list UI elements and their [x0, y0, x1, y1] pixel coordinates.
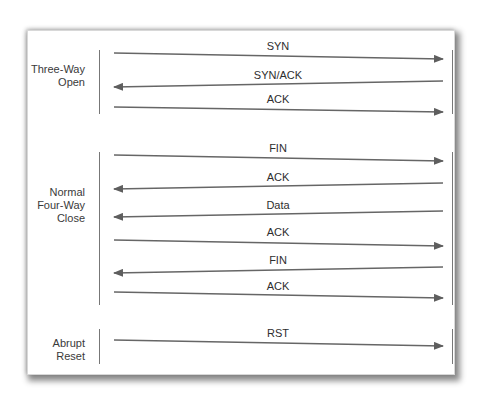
arrow-rst	[114, 340, 443, 346]
group-label-line: Three-Way	[5, 63, 85, 76]
group-label-line: Open	[5, 76, 85, 89]
arrow-data	[114, 211, 443, 217]
arrow-fin-2	[114, 267, 443, 273]
message-label-data: Data	[228, 199, 328, 211]
arrow-fin-1	[114, 155, 443, 161]
message-label-fin: FIN	[228, 254, 328, 266]
message-label-ack: ACK	[228, 93, 328, 105]
arrow-syn-ack	[114, 81, 443, 87]
arrow-syn	[114, 53, 443, 59]
group-label-line: Normal	[5, 186, 85, 199]
arrow-ack-open	[114, 107, 443, 112]
message-label-rst: RST	[228, 327, 328, 339]
arrow-ack-close-2	[114, 240, 443, 246]
group-label-abrupt-reset: Abrupt Reset	[5, 337, 85, 363]
message-label-fin: FIN	[228, 142, 328, 154]
message-label-ack: ACK	[228, 226, 328, 238]
message-label-syn-ack: SYN/ACK	[228, 69, 328, 81]
arrow-ack-close-1	[114, 183, 443, 189]
message-label-ack: ACK	[228, 280, 328, 292]
arrow-ack-close-3	[114, 292, 443, 298]
group-label-line: Abrupt	[5, 337, 85, 350]
message-label-syn: SYN	[228, 40, 328, 52]
group-label-three-way-open: Three-Way Open	[5, 63, 85, 89]
group-label-line: Four-Way	[5, 199, 85, 212]
group-label-line: Close	[5, 212, 85, 225]
message-label-ack: ACK	[228, 171, 328, 183]
group-label-line: Reset	[5, 350, 85, 363]
group-label-normal-four-way-close: Normal Four-Way Close	[5, 186, 85, 225]
